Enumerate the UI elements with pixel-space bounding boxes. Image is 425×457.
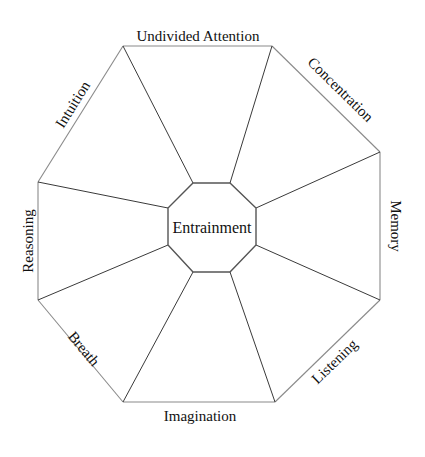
outer-edge-top-right	[272, 46, 380, 152]
label-reasoning: Reasoning	[20, 209, 36, 273]
label-imagination: Imagination	[164, 408, 237, 424]
spoke-2	[230, 46, 272, 183]
spoke-8	[38, 182, 168, 208]
spoke-7	[38, 245, 168, 300]
center-label: Entrainment	[172, 219, 252, 236]
label-breath: Breath	[65, 328, 103, 369]
label-undivided-attention: Undivided Attention	[137, 28, 260, 44]
spoke-3	[256, 152, 380, 208]
label-memory: Memory	[388, 200, 404, 252]
spoke-4	[256, 245, 380, 300]
label-intuition: Intuition	[52, 78, 93, 131]
spoke-1	[123, 46, 193, 183]
octagon-wheel-diagram: Entrainment Undivided Attention Concentr…	[0, 0, 425, 457]
outer-edge-bottom-right	[275, 300, 380, 402]
spoke-6	[123, 272, 193, 402]
outer-edge-top-left	[38, 46, 123, 182]
spoke-5	[230, 272, 275, 402]
label-concentration: Concentration	[305, 54, 377, 125]
